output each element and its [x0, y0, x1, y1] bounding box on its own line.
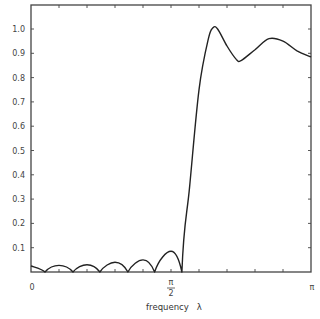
- y-tick-label: 0.4: [12, 171, 25, 180]
- y-tick-label: 0.9: [12, 49, 25, 58]
- y-tick-label: 0.7: [12, 98, 25, 107]
- y-tick-labels: 0.10.20.30.40.50.60.70.80.91.0: [12, 25, 25, 253]
- y-tick-label: 0.1: [12, 244, 25, 253]
- response-curve: [31, 27, 311, 272]
- plot-frame: [31, 5, 311, 272]
- chart: 0.10.20.30.40.50.60.70.80.91.0 0 π 2 π f…: [0, 0, 320, 319]
- x-tick-label-pi: π: [310, 283, 315, 292]
- x-axis-label: frequency λ: [146, 302, 202, 312]
- x-tick-label-half-pi-numerator: π: [169, 278, 174, 287]
- y-tick-label: 0.3: [12, 195, 25, 204]
- y-tick-label: 1.0: [12, 25, 25, 34]
- y-tick-label: 0.5: [12, 147, 25, 156]
- y-tick-label: 0.6: [12, 122, 25, 131]
- y-tick-label: 0.8: [12, 74, 25, 83]
- axis-ticks: [31, 5, 311, 272]
- y-tick-label: 0.2: [12, 219, 25, 228]
- x-tick-label-zero: 0: [29, 283, 34, 292]
- x-tick-label-half-pi-denominator: 2: [168, 289, 173, 298]
- plot-border: [31, 5, 311, 272]
